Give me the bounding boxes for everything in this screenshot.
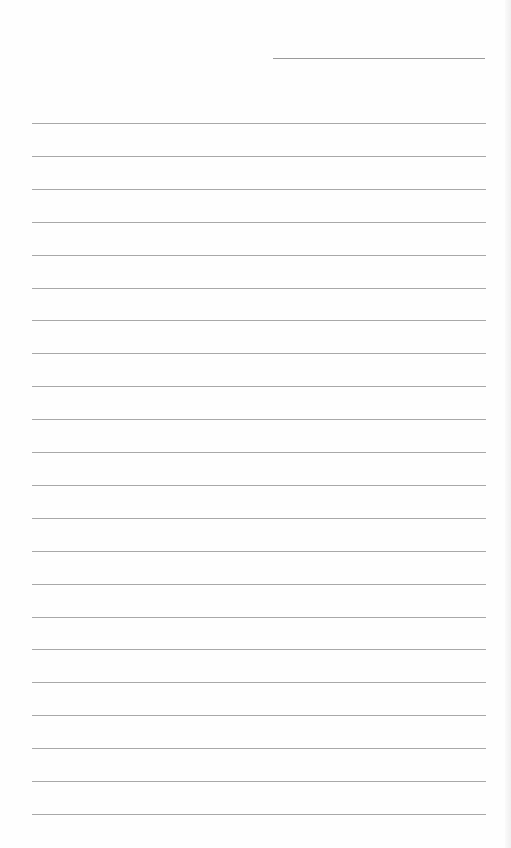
page-edge-shadow bbox=[505, 0, 511, 848]
ruled-line bbox=[32, 123, 486, 124]
ruled-line bbox=[32, 682, 486, 683]
ruled-line bbox=[32, 386, 486, 387]
ruled-line bbox=[32, 288, 486, 289]
ruled-line bbox=[32, 452, 486, 453]
ruled-line bbox=[32, 189, 486, 190]
ruled-line bbox=[32, 748, 486, 749]
ruled-line bbox=[32, 353, 486, 354]
ruled-line bbox=[32, 518, 486, 519]
ruled-line bbox=[32, 551, 486, 552]
lined-paper-page bbox=[0, 0, 511, 848]
ruled-line bbox=[32, 255, 486, 256]
ruled-line bbox=[32, 485, 486, 486]
ruled-line bbox=[32, 814, 486, 815]
ruled-line bbox=[32, 715, 486, 716]
ruled-line bbox=[32, 781, 486, 782]
ruled-line bbox=[32, 584, 486, 585]
ruled-line bbox=[32, 156, 486, 157]
ruled-line bbox=[32, 649, 486, 650]
ruled-line bbox=[32, 617, 486, 618]
ruled-line bbox=[32, 419, 486, 420]
ruled-line bbox=[32, 222, 486, 223]
ruled-line bbox=[32, 320, 486, 321]
header-name-line bbox=[273, 58, 485, 59]
